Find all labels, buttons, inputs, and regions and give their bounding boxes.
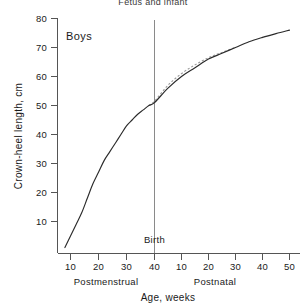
x-axis-title: Age, weeks [141, 292, 196, 303]
x-tick-label: 50 [284, 261, 295, 272]
x-tick-label: 30 [121, 261, 132, 272]
y-tick-label: 20 [36, 187, 47, 198]
y-tick-label: 40 [36, 129, 47, 140]
x-tick-label: 10 [176, 261, 187, 272]
y-tick-label: 70 [36, 42, 47, 53]
y-axis-tick-labels: 80 70 60 50 40 30 20 10 [36, 13, 47, 227]
chart-svg: Fetus and infant 80 70 60 50 40 30 20 10… [0, 0, 306, 305]
x-axis-ticks [71, 254, 290, 260]
x-axis-tick-labels-postnatal: 10 20 30 40 50 [176, 261, 295, 272]
x-scale-title-postnatal: Postnatal [194, 276, 236, 287]
y-tick-label: 50 [36, 100, 47, 111]
series-label-boys: Boys [66, 30, 92, 42]
chart-title: Fetus and infant [118, 0, 188, 7]
x-tick-label: 20 [93, 261, 104, 272]
y-tick-label: 30 [36, 158, 47, 169]
x-axis-tick-labels-postmenstrual: 10 20 30 40 [65, 261, 160, 272]
y-tick-label: 80 [36, 13, 47, 24]
x-tick-label: 10 [65, 261, 76, 272]
x-tick-label: 40 [149, 261, 160, 272]
y-tick-label: 10 [36, 216, 47, 227]
birth-label: Birth [144, 234, 165, 245]
curve-crown-heel-length [65, 30, 290, 248]
growth-chart-figure: Fetus and infant 80 70 60 50 40 30 20 10… [0, 0, 306, 305]
y-tick-label: 60 [36, 71, 47, 82]
x-tick-label: 20 [203, 261, 214, 272]
curve-extrapolated-trend [149, 47, 236, 105]
x-tick-label: 40 [257, 261, 268, 272]
x-tick-label: 30 [230, 261, 241, 272]
y-axis-title: Crown-heel length, cm [13, 83, 24, 189]
y-axis-ticks [51, 19, 58, 222]
x-scale-title-postmenstrual: Postmenstrual [74, 276, 139, 287]
